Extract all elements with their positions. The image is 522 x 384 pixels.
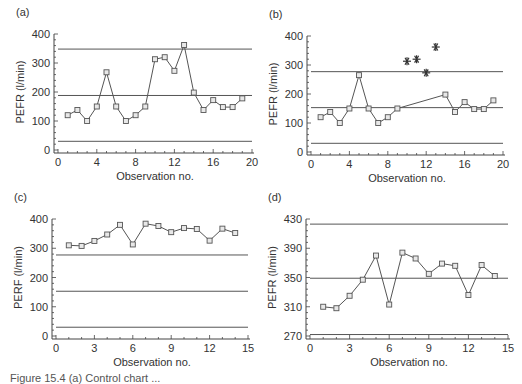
data-point-marker — [347, 106, 352, 111]
data-point-marker — [75, 107, 80, 112]
y-axis-label: PEFR (l/min) — [266, 246, 278, 309]
data-point-marker — [366, 106, 371, 111]
x-tick-label: 9 — [168, 342, 174, 354]
data-point-marker — [85, 119, 90, 124]
x-tick-label: 3 — [91, 342, 97, 354]
data-point-marker — [162, 55, 167, 60]
x-axis-label: Observation no. — [113, 356, 191, 368]
data-point-marker — [385, 115, 390, 120]
data-point-marker — [201, 107, 206, 112]
x-tick-label: 6 — [130, 342, 136, 354]
data-point-marker — [395, 106, 400, 111]
y-tick-label: 430 — [284, 213, 302, 225]
data-point-marker — [114, 104, 119, 109]
x-tick-label: 8 — [133, 156, 139, 168]
y-tick-label: 390 — [284, 242, 302, 254]
data-point-marker — [426, 271, 431, 276]
data-point-marker — [374, 253, 379, 258]
x-tick-label: 16 — [207, 156, 219, 168]
data-point-marker — [387, 302, 392, 307]
y-tick-label: 0 — [42, 330, 48, 342]
y-tick-label: 100 — [32, 115, 50, 127]
excluded-point-asterisk-icon — [413, 55, 421, 63]
data-point-marker — [376, 121, 381, 126]
data-point-marker — [182, 226, 187, 231]
data-point-marker — [334, 306, 339, 311]
data-line — [323, 253, 495, 309]
x-axis-label: Observation no. — [116, 170, 194, 182]
y-axis-label: PERF (l/min) — [12, 246, 24, 309]
data-point-marker — [105, 232, 110, 237]
x-tick-label: 20 — [246, 156, 258, 168]
x-tick-label: 8 — [385, 158, 391, 170]
x-tick-label: 0 — [55, 156, 61, 168]
y-tick-label: 310 — [284, 301, 302, 313]
data-point-marker — [130, 242, 135, 247]
data-point-marker — [172, 68, 177, 73]
data-point-marker — [357, 73, 362, 78]
panel-label: (d) — [268, 191, 281, 203]
data-point-marker — [104, 70, 109, 75]
data-point-marker — [240, 96, 245, 101]
x-tick-label: 6 — [386, 342, 392, 354]
data-point-marker — [156, 224, 161, 229]
data-point-marker — [413, 256, 418, 261]
excluded-point-asterisk-icon — [432, 43, 440, 51]
y-tick-label: 200 — [30, 272, 48, 284]
y-axis-label: PEFR (l/min) — [267, 63, 279, 126]
y-tick-label: 0 — [44, 144, 50, 156]
data-point-marker — [153, 57, 158, 62]
data-point-marker — [66, 243, 71, 248]
data-point-marker — [481, 107, 486, 112]
panel-label: (c) — [14, 191, 27, 203]
chart-panel-a: (a)0100200300400048121620Observation no.… — [14, 6, 258, 182]
chart-panel-b: (b)0100200300400048121620Observation no.… — [267, 8, 509, 184]
chart-panel-c: (c)010020030040003691215Observation no.P… — [12, 191, 254, 368]
data-point-marker — [318, 115, 323, 120]
data-point-marker — [347, 293, 352, 298]
x-tick-label: 12 — [168, 156, 180, 168]
data-point-marker — [143, 104, 148, 109]
y-tick-label: 270 — [284, 330, 302, 342]
data-point-marker — [143, 221, 148, 226]
x-axis-label: Observation no. — [368, 172, 446, 184]
data-point-marker — [182, 43, 187, 48]
data-point-marker — [440, 261, 445, 266]
data-point-marker — [443, 92, 448, 97]
x-tick-label: 15 — [242, 342, 254, 354]
data-point-marker — [133, 113, 138, 118]
chart-panel-d: (d)27031035039043003691215Observation no… — [266, 191, 514, 368]
x-axis-label: Observation no. — [370, 356, 448, 368]
data-point-marker — [462, 100, 467, 105]
data-point-marker — [220, 105, 225, 110]
panel-label: (b) — [269, 8, 282, 20]
data-point-marker — [79, 243, 84, 248]
y-tick-label: 100 — [285, 117, 303, 129]
data-point-marker — [466, 293, 471, 298]
y-tick-label: 200 — [285, 88, 303, 100]
excluded-point-asterisk-icon — [403, 57, 411, 65]
y-axis-label: PEFR (l/min) — [14, 61, 26, 124]
figure-caption: Figure 15.4 (a) Control chart ... — [10, 372, 160, 384]
data-point-marker — [472, 107, 477, 112]
data-point-marker — [453, 263, 458, 268]
y-tick-label: 100 — [30, 301, 48, 313]
x-tick-label: 12 — [462, 342, 474, 354]
x-tick-label: 3 — [347, 342, 353, 354]
y-tick-label: 300 — [32, 57, 50, 69]
data-point-marker — [328, 109, 333, 114]
data-point-marker — [207, 238, 212, 243]
data-point-marker — [191, 90, 196, 95]
data-point-marker — [453, 109, 458, 114]
panel-label: (a) — [16, 6, 29, 18]
x-tick-label: 9 — [426, 342, 432, 354]
y-tick-label: 400 — [285, 30, 303, 42]
data-point-marker — [479, 263, 484, 268]
y-tick-label: 200 — [32, 86, 50, 98]
x-tick-label: 16 — [458, 158, 470, 170]
data-point-marker — [492, 274, 497, 279]
x-tick-label: 0 — [53, 342, 59, 354]
y-tick-label: 400 — [30, 213, 48, 225]
data-line — [321, 75, 494, 123]
x-tick-label: 4 — [94, 156, 100, 168]
